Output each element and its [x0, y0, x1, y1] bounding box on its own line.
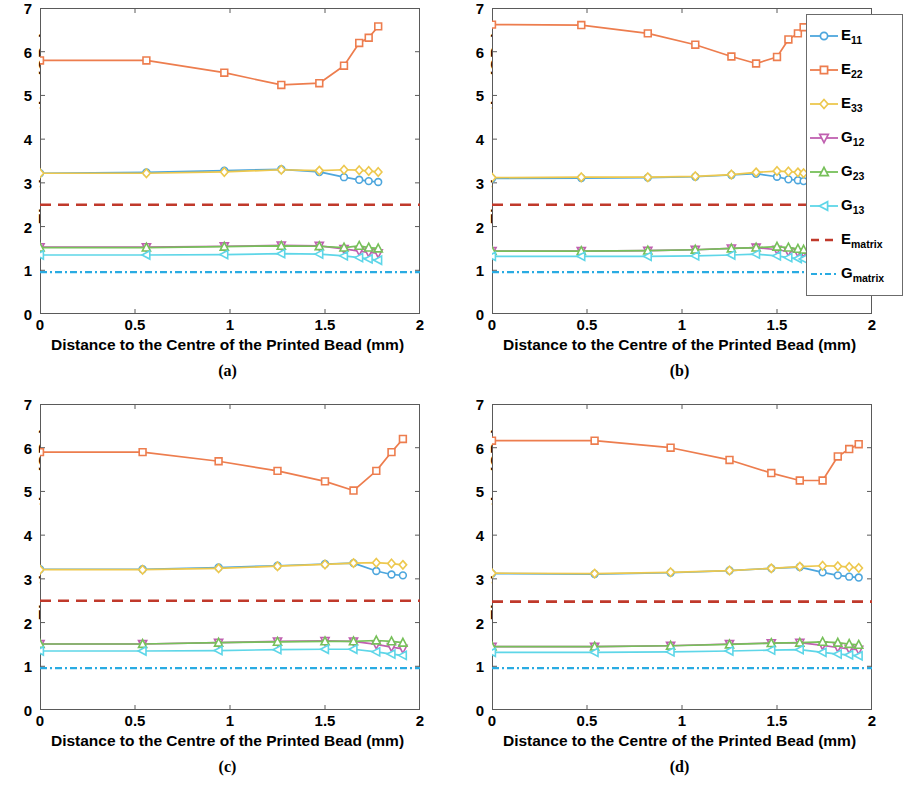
y-tick-label: 2	[476, 614, 484, 631]
y-tick-label: 2	[24, 218, 32, 235]
x-axis-label-b: Distance to the Centre of the Printed Be…	[452, 336, 907, 354]
plot-area-a	[40, 8, 420, 314]
y-tick-label: 6	[24, 43, 32, 60]
x-tick-label: 1.5	[767, 316, 788, 333]
y-tick-label: 3	[24, 570, 32, 587]
y-tick-label: 3	[24, 174, 32, 191]
x-tick-label: 0.5	[577, 712, 598, 729]
x-tick-label: 1	[226, 712, 234, 729]
panel-d: Elastic properties (GPa) 01234567 00.511…	[452, 396, 907, 796]
y-tick-label: 4	[24, 527, 32, 544]
x-tick-label: 0	[488, 316, 496, 333]
y-tick-label: 6	[476, 43, 484, 60]
plot-svg-a	[40, 8, 420, 314]
legend-swatch-circle-icon	[807, 26, 841, 46]
plot-area-c	[40, 404, 420, 710]
y-tick-labels-a: 01234567	[0, 8, 34, 314]
legend-item-Gmatrix: Gmatrix	[807, 257, 902, 291]
x-tick-label: 1.5	[767, 712, 788, 729]
x-axis-label-c: Distance to the Centre of the Printed Be…	[0, 732, 455, 750]
x-tick-label: 0	[36, 712, 44, 729]
y-tick-label: 1	[24, 262, 32, 279]
panel-c: Elastic properties (GPa) 01234567 00.511…	[0, 396, 455, 796]
legend-label: G12	[841, 129, 864, 147]
x-tick-label: 0	[488, 712, 496, 729]
legend-label: G23	[841, 163, 864, 181]
x-tick-labels-c: 00.511.52	[40, 712, 420, 730]
x-tick-labels-d: 00.511.52	[492, 712, 872, 730]
y-tick-label: 5	[476, 483, 484, 500]
y-tick-label: 4	[476, 527, 484, 544]
legend-item-E22: E22	[807, 53, 902, 87]
y-tick-label: 7	[476, 396, 484, 413]
legend-swatch-triangle-left-icon	[807, 196, 841, 216]
x-tick-label: 0.5	[125, 316, 146, 333]
legend-label: Gmatrix	[841, 265, 884, 283]
y-tick-label: 0	[24, 702, 32, 719]
legend-swatch-diamond-icon	[807, 94, 841, 114]
x-tick-label: 0.5	[577, 316, 598, 333]
x-tick-label: 2	[868, 712, 876, 729]
x-tick-label: 2	[868, 316, 876, 333]
legend-label: E33	[841, 95, 863, 113]
x-axis-label-a: Distance to the Centre of the Printed Be…	[0, 336, 455, 354]
y-tick-label: 2	[476, 218, 484, 235]
legend-swatch-none-icon	[807, 264, 841, 284]
y-tick-labels-b: 01234567	[452, 8, 486, 314]
x-tick-label: 1.5	[315, 712, 336, 729]
x-axis-label-d: Distance to the Centre of the Printed Be…	[452, 732, 907, 750]
y-tick-label: 1	[24, 658, 32, 675]
legend-item-G13: G13	[807, 189, 902, 223]
legend-item-E11: E11	[807, 19, 902, 53]
y-tick-label: 0	[476, 702, 484, 719]
x-tick-label: 1.5	[315, 316, 336, 333]
y-tick-label: 4	[24, 131, 32, 148]
x-tick-label: 1	[678, 316, 686, 333]
y-tick-label: 7	[24, 0, 32, 17]
legend-swatch-triangle-down-icon	[807, 128, 841, 148]
panel-letter-b: (b)	[452, 362, 907, 380]
legend-item-E33: E33	[807, 87, 902, 121]
legend-label: Ematrix	[841, 231, 883, 249]
legend-item-Ematrix: Ematrix	[807, 223, 902, 257]
legend-swatch-square-icon	[807, 60, 841, 80]
x-tick-label: 1	[226, 316, 234, 333]
y-tick-labels-d: 01234567	[452, 404, 486, 710]
x-tick-label: 1	[678, 712, 686, 729]
plot-area-d	[492, 404, 872, 710]
panel-letter-a: (a)	[0, 362, 455, 380]
y-tick-label: 1	[476, 658, 484, 675]
y-tick-label: 5	[24, 483, 32, 500]
legend-swatch-triangle-up-icon	[807, 162, 841, 182]
x-tick-labels-a: 00.511.52	[40, 316, 420, 334]
y-tick-label: 0	[24, 306, 32, 323]
legend-item-G12: G12	[807, 121, 902, 155]
x-tick-label: 0	[36, 316, 44, 333]
legend-label: E22	[841, 61, 863, 79]
figure-four-panel-elastic-properties: Elastic properties (GPa) 01234567 00.511…	[0, 0, 907, 796]
y-tick-label: 7	[476, 0, 484, 17]
y-tick-label: 5	[476, 87, 484, 104]
legend-swatch-none-icon	[807, 230, 841, 250]
panel-a: Elastic properties (GPa) 01234567 00.511…	[0, 0, 455, 398]
y-tick-labels-c: 01234567	[0, 404, 34, 710]
legend-label: E11	[841, 27, 862, 45]
y-tick-label: 6	[476, 439, 484, 456]
x-tick-label: 2	[416, 316, 424, 333]
panel-letter-c: (c)	[0, 758, 455, 776]
legend-item-G23: G23	[807, 155, 902, 189]
plot-svg-c	[40, 404, 420, 710]
x-tick-label: 2	[416, 712, 424, 729]
chart-legend: E11E22E33G12G23G13EmatrixGmatrix	[806, 14, 903, 296]
plot-svg-d	[492, 404, 872, 710]
y-tick-label: 0	[476, 306, 484, 323]
y-tick-label: 2	[24, 614, 32, 631]
y-tick-label: 1	[476, 262, 484, 279]
y-tick-label: 3	[476, 174, 484, 191]
legend-label: G13	[841, 197, 864, 215]
x-tick-label: 0.5	[125, 712, 146, 729]
x-tick-labels-b: 00.511.52	[492, 316, 872, 334]
panel-letter-d: (d)	[452, 758, 907, 776]
y-tick-label: 4	[476, 131, 484, 148]
y-tick-label: 6	[24, 439, 32, 456]
